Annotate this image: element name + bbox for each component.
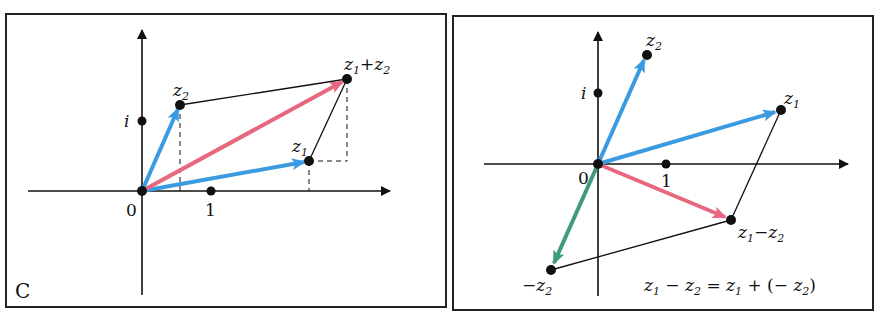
point-one [662, 160, 671, 169]
point-origin [137, 186, 147, 196]
point-one [207, 187, 216, 196]
complex-vector-diagram: 0 1 i z2 z1 z1+z2 C 0 [0, 0, 885, 319]
point-difference [726, 215, 736, 225]
label-z2: z2 [645, 30, 662, 53]
label-sum: z1+z2 [343, 54, 390, 77]
vector-z2 [142, 109, 178, 191]
point-z2 [642, 50, 652, 60]
parallelogram-side [731, 110, 781, 220]
label-one: 1 [205, 200, 216, 220]
label-i: i [581, 83, 586, 103]
point-i [594, 89, 603, 98]
label-difference: z1−z2 [737, 222, 784, 245]
vector-neg-z2 [554, 164, 598, 263]
vector-z1 [598, 112, 775, 164]
label-origin: 0 [126, 200, 137, 220]
right-panel-subtraction: 0 1 i z2 z1 z1−z2 −z2 z1 − z2 = z1 + (− … [453, 16, 873, 310]
point-origin [593, 159, 603, 169]
projection-lines [180, 79, 347, 191]
label-z1: z1 [291, 136, 308, 159]
label-one: 1 [661, 171, 672, 191]
left-panel-addition: 0 1 i z2 z1 z1+z2 C [6, 14, 446, 307]
vector-z2 [598, 60, 644, 164]
label-origin: 0 [578, 168, 589, 188]
equation: z1 − z2 = z1 + (− z2) [643, 275, 816, 298]
label-z1: z1 [783, 88, 800, 111]
label-i: i [124, 111, 129, 131]
parallelogram-side [551, 220, 731, 270]
point-sum [342, 74, 352, 84]
panel-letter: C [15, 279, 30, 303]
label-neg-z2: −z2 [522, 275, 552, 298]
point-neg-z2 [546, 265, 556, 275]
label-z2: z2 [172, 80, 189, 103]
point-i [138, 117, 147, 126]
